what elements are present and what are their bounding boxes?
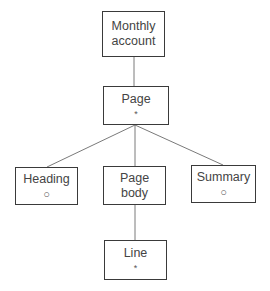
- circle-icon: ○: [220, 187, 227, 198]
- node-label: Page body: [120, 171, 149, 201]
- node-heading: Heading ○: [15, 167, 78, 205]
- node-page-body: Page body: [103, 166, 166, 205]
- node-page: Page *: [103, 86, 169, 125]
- node-label: Page: [121, 92, 150, 107]
- node-label: Heading: [23, 172, 70, 187]
- edge-page-summary: [135, 125, 223, 165]
- node-label: Summary: [197, 170, 250, 185]
- asterisk-icon: *: [134, 109, 138, 120]
- asterisk-icon: *: [134, 263, 138, 274]
- node-monthly-account: Monthly account: [102, 11, 165, 57]
- circle-icon: ○: [43, 189, 50, 200]
- node-label: Monthly account: [112, 19, 156, 49]
- edge-page-heading: [47, 125, 135, 167]
- node-summary: Summary ○: [191, 165, 256, 203]
- node-label: Line: [124, 246, 148, 261]
- node-line: Line *: [104, 240, 167, 280]
